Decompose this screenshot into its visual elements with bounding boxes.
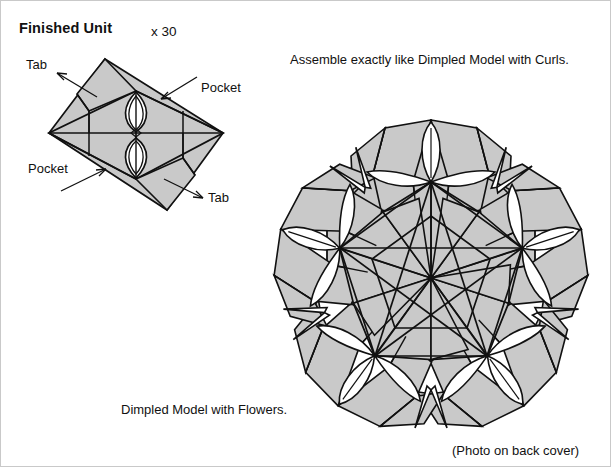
dimpled-model-with-flowers-diagram (1, 1, 611, 467)
model-caption: Dimpled Model with Flowers. (121, 403, 287, 417)
photo-reference-note: (Photo on back cover) (452, 444, 579, 458)
mandala-body (256, 120, 606, 453)
page-canvas: Finished Unit x 30 Tab Pocket Pocket Tab… (0, 0, 611, 467)
mandala-centre-point (428, 275, 433, 280)
page-title: Finished Unit (19, 21, 112, 37)
assembly-note: Assemble exactly like Dimpled Model with… (290, 53, 569, 67)
label-pocket-top: Pocket (201, 81, 241, 95)
unit-count-label: x 30 (151, 25, 177, 40)
label-pocket-bottom: Pocket (28, 162, 68, 176)
label-tab-top: Tab (26, 58, 47, 72)
label-tab-bottom: Tab (208, 191, 229, 205)
